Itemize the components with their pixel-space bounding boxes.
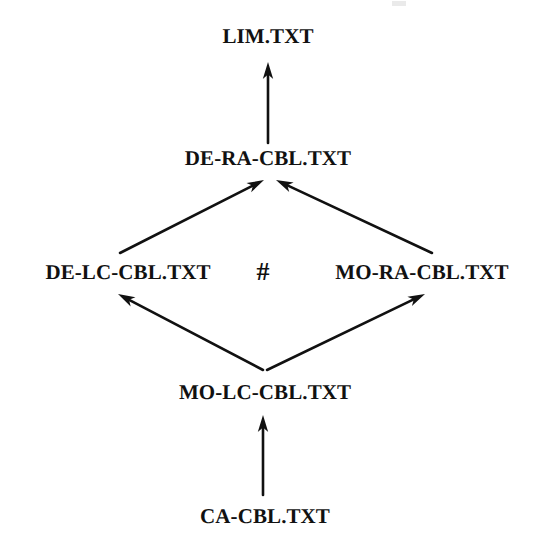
edge-mo-lc-to-de-lc: [118, 294, 263, 370]
dependency-diagram: LIM.TXT DE-RA-CBL.TXT DE-LC-CBL.TXT MO-R…: [0, 0, 542, 549]
node-ca-cbl-txt: CA-CBL.TXT: [200, 504, 330, 529]
node-de-lc-cbl-txt: DE-LC-CBL.TXT: [45, 260, 210, 285]
node-mo-lc-cbl-txt: MO-LC-CBL.TXT: [179, 380, 351, 405]
edge-mo-lc-to-de-lc-arrowhead: [118, 294, 135, 306]
node-de-ra-cbl-txt: DE-RA-CBL.TXT: [185, 146, 351, 171]
edge-de-lc-to-de-ra: [120, 180, 264, 253]
node-lim-txt: LIM.TXT: [222, 24, 313, 49]
hash-symbol: #: [257, 257, 270, 287]
edge-mo-lc-to-mo-ra: [267, 294, 425, 370]
edge-mo-ra-to-de-ra: [276, 180, 432, 253]
edge-de-ra-to-lim: [263, 62, 273, 143]
node-mo-ra-cbl-txt: MO-RA-CBL.TXT: [335, 260, 508, 285]
edge-ca-cbl-to-mo-lc: [258, 415, 268, 495]
